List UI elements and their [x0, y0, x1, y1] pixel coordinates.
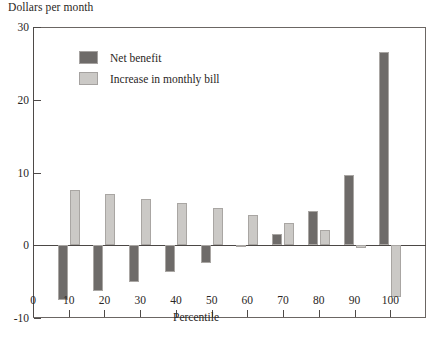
- x-tick-label: 50: [206, 294, 218, 306]
- bar: [379, 52, 389, 246]
- plot-frame-right: [425, 27, 426, 318]
- bar: [177, 203, 187, 245]
- x-tick-label: 100: [382, 294, 399, 306]
- x-tick-label: 60: [242, 294, 254, 306]
- plot-frame-top: [33, 27, 426, 28]
- x-tick-label: 90: [349, 294, 361, 306]
- x-tick-mark: [33, 310, 34, 317]
- bar: [70, 190, 80, 245]
- x-tick-mark: [69, 310, 70, 317]
- x-tick-mark: [355, 310, 356, 317]
- x-axis-title: Percentile: [173, 311, 219, 323]
- zero-baseline: [33, 245, 426, 246]
- x-tick-label: 10: [63, 294, 75, 306]
- x-tick-mark: [104, 310, 105, 317]
- legend-label: Net benefit: [110, 52, 161, 64]
- bar: [272, 234, 282, 246]
- y-tick-label: 20: [18, 94, 30, 106]
- x-tick-mark: [390, 310, 391, 317]
- bar: [213, 208, 223, 245]
- bar: [356, 245, 366, 248]
- legend-swatch: [79, 72, 98, 85]
- bar: [320, 230, 330, 245]
- y-axis-title: Dollars per month: [8, 1, 93, 13]
- x-tick-label: 80: [313, 294, 325, 306]
- x-tick-label: 20: [99, 294, 111, 306]
- bar: [236, 245, 246, 247]
- y-tick-label: 10: [18, 166, 30, 178]
- y-tick-mark: [34, 100, 41, 101]
- bar: [248, 215, 258, 246]
- y-tick-label: 0: [23, 239, 29, 251]
- legend-item: Increase in monthly bill: [79, 68, 220, 89]
- bar: [344, 175, 354, 246]
- legend-item: Net benefit: [79, 47, 220, 68]
- y-tick-label: -10: [14, 312, 29, 324]
- x-tick-label: 40: [170, 294, 182, 306]
- bar: [129, 245, 139, 281]
- bar: [93, 245, 103, 291]
- chart-figure: Dollars per month -100102030 01020304050…: [0, 0, 441, 358]
- bar: [308, 211, 318, 245]
- bar: [391, 245, 401, 297]
- x-tick-label: 0: [30, 294, 36, 306]
- bar: [201, 245, 211, 263]
- legend-swatch: [79, 51, 98, 64]
- y-tick-label: 30: [18, 21, 30, 33]
- bar: [165, 245, 175, 272]
- x-tick-label: 70: [277, 294, 289, 306]
- x-tick-mark: [283, 310, 284, 317]
- legend-label: Increase in monthly bill: [110, 73, 220, 85]
- bar: [141, 199, 151, 246]
- x-axis-line: [33, 317, 426, 318]
- y-tick-mark: [34, 27, 41, 28]
- x-tick-mark: [319, 310, 320, 317]
- y-tick-mark: [34, 318, 41, 319]
- bar: [284, 223, 294, 246]
- bar: [105, 194, 115, 246]
- y-tick-mark: [34, 245, 41, 246]
- chart-legend: Net benefitIncrease in monthly bill: [79, 47, 220, 89]
- x-tick-mark: [140, 310, 141, 317]
- bar: [58, 245, 68, 300]
- x-tick-label: 30: [134, 294, 146, 306]
- x-tick-mark: [247, 310, 248, 317]
- y-tick-mark: [34, 173, 41, 174]
